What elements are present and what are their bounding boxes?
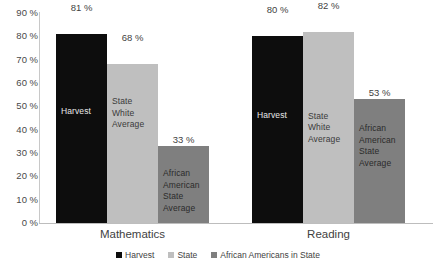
- legend: Harvest State African Americans in State: [0, 250, 436, 260]
- bar-value-label: 68 %: [107, 32, 158, 43]
- bar-value-label: 82 %: [303, 0, 354, 11]
- bar-reading-state[interactable]: State White Average: [303, 32, 354, 223]
- bar-inner-label: Harvest: [257, 110, 287, 122]
- bar-mathematics-harvest[interactable]: Harvest: [56, 34, 107, 223]
- y-axis-tick: 50 %: [2, 102, 38, 112]
- category-label-reading: Reading: [252, 228, 405, 240]
- bar-value-label: 81 %: [56, 2, 107, 13]
- legend-label: Harvest: [125, 250, 154, 260]
- legend-item-state[interactable]: State: [168, 250, 197, 260]
- bar-value-label: 33 %: [158, 134, 209, 145]
- legend-label: African Americans in State: [220, 250, 320, 260]
- bar-mathematics-state[interactable]: State White Average: [107, 64, 158, 223]
- bar-inner-label: African American State Average: [359, 123, 396, 169]
- legend-swatch-icon: [116, 252, 122, 258]
- bar-value-label: 80 %: [252, 4, 303, 15]
- x-axis-line: [39, 223, 433, 224]
- legend-item-african-americans-in-state[interactable]: African Americans in State: [211, 250, 320, 260]
- y-axis-tick: 80 %: [2, 32, 38, 42]
- bar-reading-african-americans[interactable]: African American State Average: [354, 99, 405, 223]
- legend-item-harvest[interactable]: Harvest: [116, 250, 154, 260]
- bar-chart: 90 % 80 % 70 % 60 % 50 % 40 % 30 % 20 % …: [0, 0, 436, 267]
- bar-inner-label: Harvest: [61, 106, 91, 118]
- bar-value-label: 53 %: [354, 87, 405, 98]
- plot-area: Harvest 81 % State White Average 68 % Af…: [39, 13, 432, 223]
- legend-swatch-icon: [211, 252, 217, 258]
- y-axis-tick: 70 %: [2, 55, 38, 65]
- bar-inner-label: State White Average: [112, 96, 144, 131]
- y-axis-tick: 0 %: [2, 218, 38, 228]
- category-label-mathematics: Mathematics: [56, 228, 209, 240]
- y-axis-tick: 20 %: [2, 172, 38, 182]
- y-axis-tick: 60 %: [2, 78, 38, 88]
- y-axis-tick: 40 %: [2, 125, 38, 135]
- y-axis-tick-labels: 90 % 80 % 70 % 60 % 50 % 40 % 30 % 20 % …: [0, 0, 38, 267]
- legend-label: State: [177, 250, 197, 260]
- y-axis-tick: 30 %: [2, 148, 38, 158]
- bar-inner-label: State White Average: [308, 111, 340, 146]
- y-axis-tick: 90 %: [2, 8, 38, 18]
- bar-mathematics-african-americans[interactable]: African American State Average: [158, 146, 209, 223]
- bar-inner-label: African American State Average: [163, 168, 200, 214]
- bar-reading-harvest[interactable]: Harvest: [252, 36, 303, 223]
- y-axis-tick: 10 %: [2, 195, 38, 205]
- legend-swatch-icon: [168, 252, 174, 258]
